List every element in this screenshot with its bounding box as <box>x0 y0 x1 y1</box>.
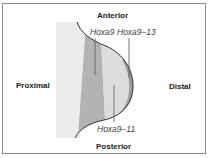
anterior-label: Anterior <box>97 12 128 20</box>
limb-bud-diagram <box>0 0 209 158</box>
hoxa9-11-domain <box>100 22 140 138</box>
distal-label: Distal <box>169 83 191 91</box>
hoxa9-label: Hoxa9 <box>90 28 115 37</box>
posterior-label: Posterior <box>96 143 131 151</box>
hoxa9-11-label: Hoxa9–11 <box>97 125 135 134</box>
proximal-label: Proximal <box>16 82 50 90</box>
hoxa9-13-label: Hoxa9–13 <box>117 28 156 37</box>
